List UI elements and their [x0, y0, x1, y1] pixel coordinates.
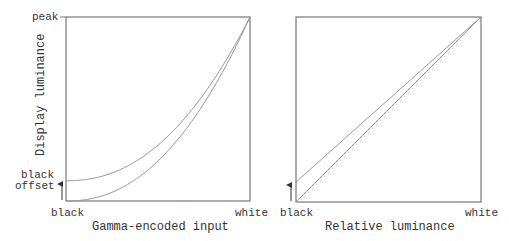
peak-label: peak — [32, 12, 58, 23]
gamma-curve — [66, 17, 250, 201]
right-x-axis-label: Relative luminance — [325, 222, 455, 233]
right-x-max-label: white — [465, 208, 498, 219]
y-axis-label: Display luminance — [36, 34, 47, 156]
black-offset-label-line2: offset — [15, 181, 55, 192]
x-min-label: black — [51, 208, 84, 219]
charts-canvas — [0, 0, 509, 241]
x-max-label: white — [235, 208, 268, 219]
left-plot — [60, 17, 250, 201]
right-x-min-label: black — [280, 208, 313, 219]
right-plot — [291, 17, 481, 202]
left-plot-frame — [66, 17, 250, 201]
linear-offset-line — [296, 17, 481, 182]
gamma-offset-curve — [66, 17, 250, 181]
linear-line — [296, 17, 481, 202]
x-axis-label: Gamma-encoded input — [92, 222, 229, 233]
